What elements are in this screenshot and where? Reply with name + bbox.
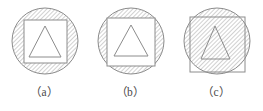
figure-caption-a: （a） xyxy=(0,84,88,100)
figure-caption-b: （b） xyxy=(86,84,174,100)
figure-caption-c: （c） xyxy=(172,84,260,100)
figure-panel-b: （b） xyxy=(86,0,174,111)
figure-panel-c: （c） xyxy=(172,0,260,111)
figure-c-drawing xyxy=(172,0,260,84)
figure-a-drawing xyxy=(0,0,88,84)
figure-board: （a） （b） xyxy=(0,0,263,111)
circle-hatch-fill-c xyxy=(172,0,260,84)
figure-b-drawing xyxy=(86,0,174,84)
figure-panel-a: （a） xyxy=(0,0,88,111)
